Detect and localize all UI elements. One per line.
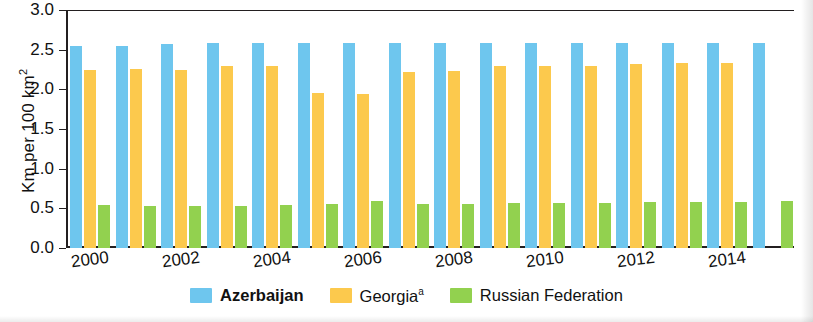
- bar: [480, 43, 492, 248]
- bar: [312, 93, 324, 248]
- scan-edge-shadow-bottom: [0, 316, 813, 322]
- bar: [116, 46, 128, 248]
- x-tick-label: 2000: [70, 248, 110, 272]
- bar: [371, 201, 383, 248]
- y-tick-mark: [59, 89, 66, 90]
- bar-group: [525, 43, 565, 248]
- legend-footnote-marker: a: [418, 286, 424, 297]
- x-tick-label: 2004: [252, 248, 292, 272]
- bar: [448, 71, 460, 248]
- bar: [676, 63, 688, 248]
- bar: [553, 203, 565, 248]
- bar: [326, 204, 338, 248]
- bar: [280, 205, 292, 248]
- x-tick-label: 2012: [616, 248, 656, 272]
- bar-group: [662, 43, 702, 248]
- x-tick-label: 2014: [707, 248, 747, 272]
- bar: [753, 43, 765, 248]
- bar: [721, 63, 733, 248]
- legend: AzerbaijanGeorgiaaRussian Federation: [0, 286, 813, 306]
- y-tick-mark: [59, 169, 66, 170]
- bar: [298, 43, 310, 248]
- bar: [266, 66, 278, 248]
- bar: [144, 206, 156, 248]
- bar-group: [753, 43, 793, 248]
- bar: [207, 43, 219, 248]
- legend-swatch: [450, 288, 472, 303]
- bar: [644, 202, 656, 248]
- bar: [707, 43, 719, 248]
- x-tick-label: 2008: [434, 248, 474, 272]
- y-tick-label: 1.0: [30, 159, 54, 179]
- bar: [389, 43, 401, 248]
- chart-container: Km per 100 km2 0.00.51.01.52.02.53.0 200…: [0, 0, 813, 322]
- plot-inner: 0.00.51.01.52.02.53.0: [66, 10, 794, 248]
- bar: [252, 43, 264, 248]
- bar: [175, 70, 187, 249]
- bar: [616, 43, 628, 248]
- bar: [525, 43, 537, 248]
- bar: [434, 43, 446, 248]
- bar: [630, 64, 642, 248]
- bar-group: [389, 43, 429, 248]
- y-axis-label-exponent: 2: [17, 69, 29, 75]
- x-tick-label: 2010: [525, 248, 565, 272]
- bar-group: [252, 43, 292, 248]
- legend-item[interactable]: Georgiaa: [330, 286, 424, 306]
- y-tick-label: 3.0: [30, 0, 54, 20]
- bar: [571, 43, 583, 248]
- legend-label: Azerbaijan: [220, 286, 303, 305]
- bar-group: [70, 46, 110, 248]
- y-tick-mark: [59, 50, 66, 51]
- legend-item[interactable]: Russian Federation: [450, 286, 623, 305]
- y-tick-label: 2.5: [30, 40, 54, 60]
- bar: [508, 203, 520, 248]
- bar: [599, 203, 611, 248]
- bar: [417, 204, 429, 248]
- y-tick-label: 1.5: [30, 119, 54, 139]
- bar-group: [116, 46, 156, 248]
- y-tick-label: 0.0: [30, 238, 54, 258]
- bar: [98, 205, 110, 248]
- y-tick-label: 0.5: [30, 198, 54, 218]
- bar-group: [161, 44, 201, 248]
- y-tick-mark: [59, 248, 66, 249]
- bar: [403, 72, 415, 248]
- x-axis-ticks: 20002002200420062008201020122014: [66, 250, 794, 280]
- bar-group: [298, 43, 338, 248]
- bar: [585, 66, 597, 248]
- bar-group: [434, 43, 474, 248]
- bar: [662, 43, 674, 248]
- bar: [343, 43, 355, 248]
- bar: [84, 70, 96, 248]
- plot-area: 0.00.51.01.52.02.53.0: [66, 10, 794, 248]
- bar: [221, 66, 233, 248]
- y-tick-mark: [59, 10, 66, 11]
- legend-swatch: [330, 288, 352, 303]
- bar-series-group: [66, 10, 794, 248]
- scan-edge-shadow-right: [801, 0, 813, 322]
- bar: [539, 66, 551, 248]
- bar-group: [571, 43, 611, 248]
- bar-group: [207, 43, 247, 248]
- legend-swatch: [190, 288, 212, 303]
- x-tick-label: 2006: [343, 248, 383, 272]
- bar: [235, 206, 247, 248]
- bar-group: [480, 43, 520, 248]
- legend-label: Georgiaa: [360, 286, 424, 306]
- bar: [161, 44, 173, 248]
- bar: [781, 201, 793, 248]
- y-tick-mark: [59, 129, 66, 130]
- bar: [690, 202, 702, 248]
- bar: [189, 206, 201, 248]
- y-tick-label: 2.0: [30, 79, 54, 99]
- bar: [70, 46, 82, 248]
- y-tick-mark: [59, 208, 66, 209]
- legend-item[interactable]: Azerbaijan: [190, 286, 303, 305]
- bar: [357, 94, 369, 248]
- bar: [462, 204, 474, 248]
- bar: [494, 66, 506, 248]
- bar-group: [707, 43, 747, 248]
- x-tick-label: 2002: [161, 248, 201, 272]
- legend-label: Russian Federation: [480, 286, 623, 305]
